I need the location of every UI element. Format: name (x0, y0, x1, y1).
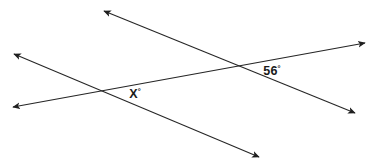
geometry-canvas: 56° X° (0, 0, 371, 167)
degree-symbol-icon: ° (278, 64, 281, 73)
diagram-background (0, 0, 371, 167)
geometry-diagram: 56° X° (0, 0, 371, 167)
angle-value-56: 56 (263, 64, 277, 78)
degree-symbol-icon: ° (138, 87, 141, 96)
